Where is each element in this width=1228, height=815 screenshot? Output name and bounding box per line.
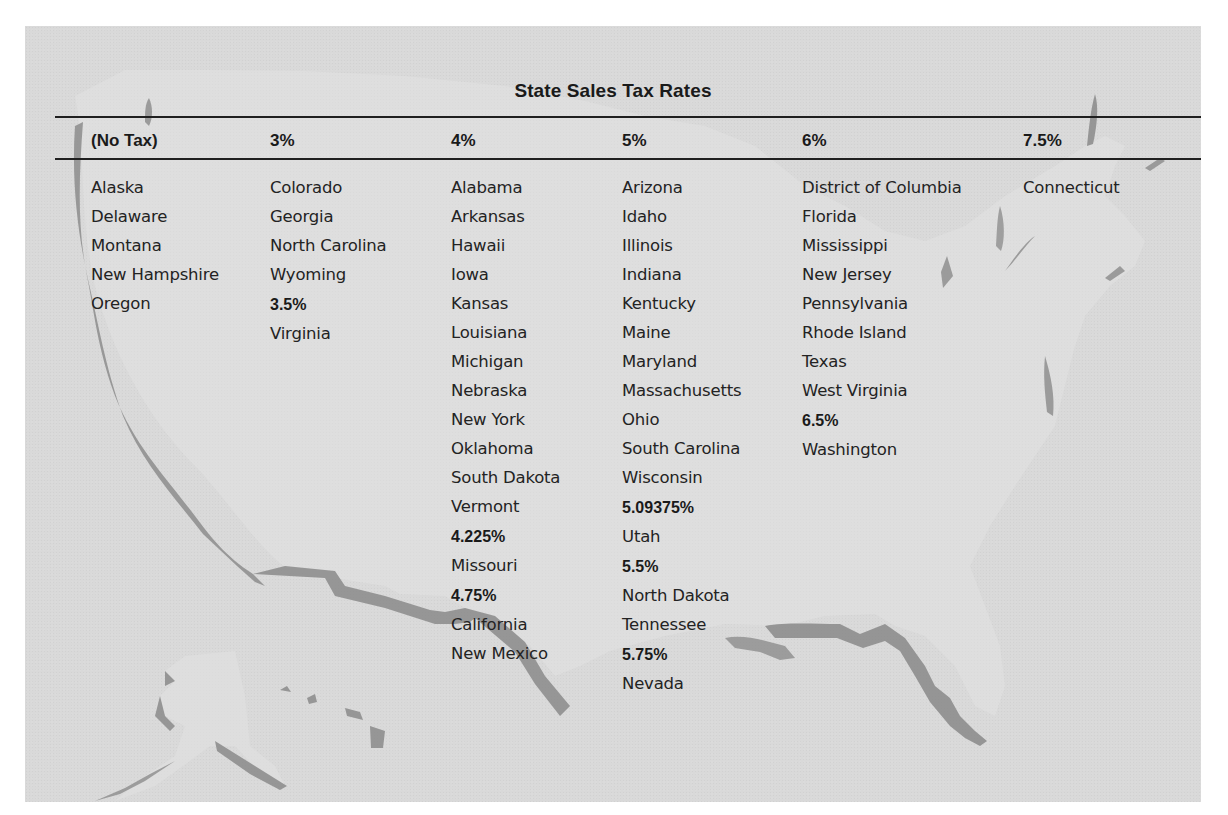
state-name: Oregon (91, 289, 219, 318)
state-name: Missouri (451, 551, 560, 580)
state-name: Kentucky (622, 289, 741, 318)
state-name: New Mexico (451, 639, 560, 668)
state-name: Maine (622, 318, 741, 347)
state-name: Arkansas (451, 202, 560, 231)
state-name: Delaware (91, 202, 219, 231)
state-name: West Virginia (802, 376, 962, 405)
state-name: Idaho (622, 202, 741, 231)
sub-rate-label: 5.75% (622, 639, 741, 669)
state-name: District of Columbia (802, 173, 962, 202)
sales-tax-panel: State Sales Tax Rates (No Tax) Alaska De… (25, 26, 1201, 802)
sub-rate-label: 5.5% (622, 551, 741, 581)
column-header: 4% (451, 131, 560, 173)
state-name: Alabama (451, 173, 560, 202)
state-name: Hawaii (451, 231, 560, 260)
state-name: Florida (802, 202, 962, 231)
state-name: Oklahoma (451, 434, 560, 463)
page-title: State Sales Tax Rates (25, 80, 1201, 102)
state-name: Mississippi (802, 231, 962, 260)
state-name: Pennsylvania (802, 289, 962, 318)
header-top-rule (55, 116, 1201, 118)
state-name: Wisconsin (622, 463, 741, 492)
state-name: Montana (91, 231, 219, 260)
state-name: Connecticut (1023, 173, 1120, 202)
column-header: 7.5% (1023, 131, 1120, 173)
state-name: North Dakota (622, 581, 741, 610)
sub-rate-label: 4.75% (451, 580, 560, 610)
state-name: South Carolina (622, 434, 741, 463)
sub-rate-label: 4.225% (451, 521, 560, 551)
state-name: Colorado (270, 173, 386, 202)
column-no-tax: (No Tax) Alaska Delaware Montana New Ham… (91, 131, 219, 318)
state-name: Louisiana (451, 318, 560, 347)
sub-rate-label: 6.5% (802, 405, 962, 435)
state-name: Tennessee (622, 610, 741, 639)
sub-rate-label: 5.09375% (622, 492, 741, 522)
column-5-percent: 5% Arizona Idaho Illinois Indiana Kentuc… (622, 131, 741, 698)
state-name: Nevada (622, 669, 741, 698)
sub-rate-label: 3.5% (270, 289, 386, 319)
state-name: Kansas (451, 289, 560, 318)
state-name: North Carolina (270, 231, 386, 260)
column-6-percent: 6% District of Columbia Florida Mississi… (802, 131, 962, 464)
state-name: Washington (802, 435, 962, 464)
state-name: Utah (622, 522, 741, 551)
state-name: Nebraska (451, 376, 560, 405)
state-name: New Jersey (802, 260, 962, 289)
state-name: Alaska (91, 173, 219, 202)
state-name: Indiana (622, 260, 741, 289)
state-name: Virginia (270, 319, 386, 348)
state-name: Illinois (622, 231, 741, 260)
column-7-5-percent: 7.5% Connecticut (1023, 131, 1120, 202)
state-name: Vermont (451, 492, 560, 521)
column-header: 5% (622, 131, 741, 173)
column-header: (No Tax) (91, 131, 219, 173)
state-name: Michigan (451, 347, 560, 376)
state-name: California (451, 610, 560, 639)
state-name: Iowa (451, 260, 560, 289)
state-name: Texas (802, 347, 962, 376)
column-header: 6% (802, 131, 962, 173)
state-name: New York (451, 405, 560, 434)
state-name: Wyoming (270, 260, 386, 289)
state-name: Massachusetts (622, 376, 741, 405)
state-name: Arizona (622, 173, 741, 202)
state-name: Rhode Island (802, 318, 962, 347)
column-4-percent: 4% Alabama Arkansas Hawaii Iowa Kansas L… (451, 131, 560, 668)
column-header: 3% (270, 131, 386, 173)
state-name: Maryland (622, 347, 741, 376)
state-name: Georgia (270, 202, 386, 231)
state-name: New Hampshire (91, 260, 219, 289)
state-name: Ohio (622, 405, 741, 434)
state-name: South Dakota (451, 463, 560, 492)
column-3-percent: 3% Colorado Georgia North Carolina Wyomi… (270, 131, 386, 348)
